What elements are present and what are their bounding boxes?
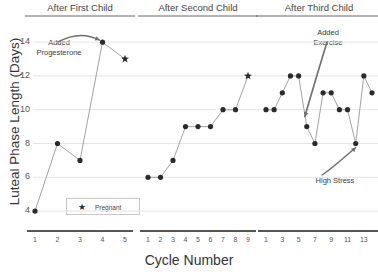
y-tick-label: 4 [8,205,30,215]
y-tick-label: 8 [8,138,30,148]
y-tick-label: 6 [8,171,30,181]
x-tick-label: 5 [118,236,132,243]
y-tick-label: 10 [8,104,30,114]
x-tick-label: 2 [51,236,65,243]
x-tick-label: 1 [259,236,273,243]
chart-container: Luteal Phase Length (Days) Cycle Number … [0,0,378,277]
y-tick-label: 12 [8,70,30,80]
x-tick-label: 3 [275,236,289,243]
x-tick-label: 11 [341,236,355,243]
x-tick-label: 3 [73,236,87,243]
y-tick-label: 14 [8,36,30,46]
x-tick-label: 9 [324,236,338,243]
x-tick-label: 7 [308,236,322,243]
x-tick-label: 9 [241,236,255,243]
x-tick-label: 4 [96,236,110,243]
x-tick-label: 13 [357,236,371,243]
x-tick-label: 5 [292,236,306,243]
x-tick-label: 1 [28,236,42,243]
